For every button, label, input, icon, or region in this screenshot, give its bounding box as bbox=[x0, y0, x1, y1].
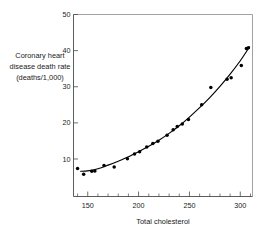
scatter-plot-svg: 1020304050 150200250300 Coronary heart d… bbox=[0, 0, 266, 233]
data-point-marker bbox=[133, 152, 137, 156]
y-tick-label: 50 bbox=[63, 10, 71, 19]
data-point-marker bbox=[225, 77, 229, 81]
data-point-marker bbox=[240, 64, 244, 68]
y-tick-label: 10 bbox=[63, 155, 71, 164]
data-point-marker bbox=[171, 128, 175, 132]
data-point-marker bbox=[112, 165, 116, 169]
x-axis-label: Total cholesterol bbox=[136, 217, 190, 226]
y-tick-label: 20 bbox=[63, 118, 71, 127]
data-point-marker bbox=[151, 142, 155, 146]
y-axis-label-line-1: Coronary heart bbox=[15, 51, 64, 60]
y-axis-label-line-2: disease death rate bbox=[10, 62, 71, 71]
data-point-marker bbox=[181, 122, 185, 126]
data-point-marker bbox=[90, 170, 94, 174]
data-point-marker bbox=[229, 76, 233, 80]
y-tick-label: 30 bbox=[63, 82, 71, 91]
y-axis-label: Coronary heart disease death rate (death… bbox=[10, 51, 71, 82]
data-point-marker bbox=[165, 133, 169, 137]
x-tick-label: 200 bbox=[133, 201, 145, 210]
data-point-marker bbox=[138, 150, 142, 154]
figure-background bbox=[0, 0, 266, 233]
data-point-marker bbox=[209, 86, 213, 90]
data-point-marker bbox=[76, 167, 80, 171]
x-tick-label: 300 bbox=[234, 201, 246, 210]
data-point-marker bbox=[126, 157, 129, 161]
data-point-marker bbox=[102, 164, 106, 168]
chart-figure: 1020304050 150200250300 Coronary heart d… bbox=[0, 0, 266, 233]
data-point-marker bbox=[175, 125, 179, 128]
data-point-marker bbox=[200, 103, 204, 107]
y-axis-label-line-3: (deaths/1,000) bbox=[16, 73, 64, 82]
data-point-marker bbox=[187, 118, 191, 122]
data-point-marker bbox=[93, 169, 97, 173]
x-tick-label: 250 bbox=[183, 201, 195, 210]
data-point-marker bbox=[145, 145, 149, 149]
data-point-marker bbox=[247, 46, 251, 50]
x-tick-label: 150 bbox=[82, 201, 94, 210]
data-point-marker bbox=[82, 172, 86, 176]
data-point-marker bbox=[156, 140, 160, 144]
